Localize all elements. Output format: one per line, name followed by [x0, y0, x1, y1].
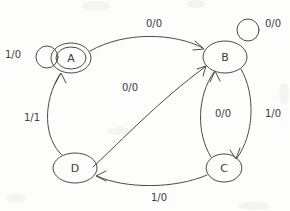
- state-c-label: C: [220, 162, 228, 175]
- state-b[interactable]: B: [203, 41, 247, 73]
- transition-b-to-c: [230, 69, 251, 159]
- transition-label-d-to-a: 1/1: [24, 112, 40, 123]
- state-d-label: D: [71, 162, 79, 175]
- transition-label-d-to-b: 0/0: [122, 82, 138, 93]
- state-b-label: B: [221, 51, 229, 64]
- transition-label-a-self: 1/0: [5, 49, 21, 60]
- transition-c-to-d: [96, 171, 207, 186]
- state-diagram: A B C D 1/0 0/0 0/0 1/0 0/0 1/0 1/1 0/0: [0, 0, 290, 211]
- transition-label-c-to-d: 1/0: [151, 192, 167, 203]
- transition-a-to-b: [90, 36, 204, 51]
- transition-d-to-b: [93, 66, 206, 167]
- state-a-label: A: [67, 52, 75, 65]
- transition-label-c-to-b: 0/0: [215, 108, 231, 119]
- transition-label-b-to-c: 1/0: [265, 108, 281, 119]
- fsm-canvas: A B C D 1/0 0/0 0/0 1/0 0/0 1/0 1/1 0/0: [0, 0, 290, 211]
- state-c[interactable]: C: [206, 154, 242, 182]
- transition-label-a-to-b: 0/0: [146, 18, 162, 29]
- transition-label-b-self: 0/0: [265, 18, 281, 29]
- transition-b-self: [237, 19, 259, 41]
- transition-d-to-a: [47, 73, 66, 155]
- state-d[interactable]: D: [53, 153, 97, 183]
- state-a[interactable]: A: [51, 43, 91, 73]
